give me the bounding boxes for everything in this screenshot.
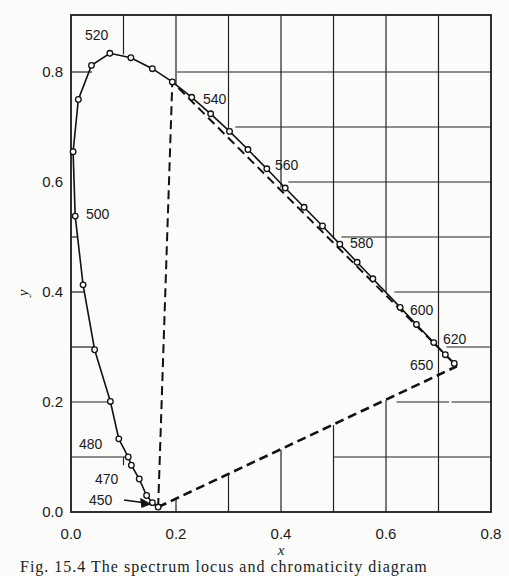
locus-marker <box>155 504 161 510</box>
locus-marker <box>128 55 134 61</box>
locus-marker <box>370 276 376 282</box>
x-tick: 0.8 <box>481 525 502 542</box>
locus-marker <box>451 361 457 367</box>
locus-marker <box>443 352 449 358</box>
spectrum-locus <box>73 53 457 507</box>
wavelength-label-580: 580 <box>350 235 374 251</box>
primary-triangle <box>158 82 457 507</box>
x-tick: 0.2 <box>166 525 187 542</box>
figure-caption: Fig. 15.4 The spectrum locus and chromat… <box>20 558 428 576</box>
wavelength-label-650: 650 <box>410 357 434 373</box>
wavelength-label-620: 620 <box>443 331 467 347</box>
grid <box>71 15 491 512</box>
x-tick-labels: 0.0 0.2 0.4 0.6 0.8 <box>61 525 502 542</box>
locus-marker <box>320 223 326 229</box>
locus-marker <box>144 493 150 499</box>
y-tick-labels: 0.0 0.2 0.4 0.6 0.8 <box>42 63 63 520</box>
wavelength-label-560: 560 <box>275 157 299 173</box>
locus-marker <box>414 322 420 328</box>
locus-marker <box>150 66 156 72</box>
wavelength-label-520: 520 <box>85 27 109 43</box>
locus-marker <box>189 95 195 101</box>
locus-marker <box>92 347 98 353</box>
locus-marker <box>170 79 176 85</box>
locus-marker <box>208 111 214 117</box>
x-tick: 0.4 <box>271 525 292 542</box>
wavelength-label-500: 500 <box>86 206 110 222</box>
locus-marker <box>337 241 343 247</box>
locus-marker <box>107 51 113 57</box>
locus-marker <box>136 476 142 482</box>
locus-marker <box>245 147 251 153</box>
locus-marker <box>70 149 76 155</box>
locus-marker <box>80 282 86 288</box>
locus-marker <box>150 500 156 506</box>
locus-marker <box>129 462 135 468</box>
x-axis-label: x <box>277 542 285 558</box>
locus-marker <box>301 205 307 211</box>
wavelength-label-470: 470 <box>95 471 119 487</box>
locus-marker <box>108 399 114 405</box>
y-tick: 0.6 <box>42 173 63 190</box>
y-tick: 0.2 <box>42 393 63 410</box>
y-tick: 0.0 <box>42 503 63 520</box>
wavelength-label-480: 480 <box>79 436 103 452</box>
locus-marker <box>125 454 131 460</box>
locus-marker <box>72 213 78 219</box>
locus-markers <box>70 51 457 510</box>
locus-marker <box>227 129 233 135</box>
locus-marker <box>282 185 288 191</box>
y-tick: 0.8 <box>42 63 63 80</box>
locus-marker <box>89 63 95 69</box>
y-axis-label: y <box>15 289 31 298</box>
arrow-450 <box>124 499 150 507</box>
wavelength-labels: 520 540 560 580 600 620 650 500 480 470 … <box>79 27 467 508</box>
wavelength-label-450: 450 <box>89 492 113 508</box>
locus-marker <box>354 260 360 266</box>
x-tick: 0.0 <box>61 525 82 542</box>
locus-marker <box>431 340 437 346</box>
y-tick: 0.4 <box>42 283 63 300</box>
locus-marker <box>76 97 82 103</box>
locus-marker <box>397 305 403 311</box>
wavelength-label-600: 600 <box>410 302 434 318</box>
wavelength-label-540: 540 <box>203 91 227 107</box>
locus-marker <box>264 166 270 172</box>
locus-marker <box>116 436 122 442</box>
x-tick: 0.6 <box>376 525 397 542</box>
